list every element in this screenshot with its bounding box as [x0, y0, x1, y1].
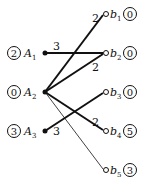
node-b1-name: b	[110, 8, 117, 21]
node-a1-name: A	[23, 47, 32, 60]
node-b3-sub: 3	[117, 93, 121, 101]
node-b4-name: b	[110, 125, 117, 138]
node-b5: b 5 3	[104, 164, 137, 180]
node-a1-value: 2	[11, 48, 17, 59]
weight-a1-b2: 3	[53, 40, 60, 53]
node-b3-value: 0	[127, 87, 133, 98]
bipartite-graph: 2 3 2 2 3 2 A 1 0 A 2 3 A 3 b 1 0 b 2 0	[0, 0, 146, 185]
node-a1-sub: 1	[32, 54, 36, 62]
node-b2-value: 0	[127, 48, 133, 59]
node-a3-sub: 3	[32, 132, 36, 140]
node-a1: 2 A 1	[8, 47, 48, 63]
node-b2-sub: 2	[117, 54, 121, 62]
node-b4-sub: 4	[117, 132, 122, 140]
node-a2-value: 0	[11, 87, 17, 98]
node-b4: b 4 5	[104, 125, 137, 141]
weight-a3-b3: 3	[53, 125, 60, 138]
weight-a2-b4: 2	[92, 116, 99, 129]
node-a2-name: A	[23, 86, 32, 99]
weight-a2-b2: 2	[92, 61, 99, 74]
node-b2: b 2 0	[104, 47, 137, 63]
node-b3-name: b	[110, 86, 117, 99]
node-b3: b 3 0	[104, 86, 137, 102]
node-b5-name: b	[110, 164, 117, 177]
weight-a2-b1: 2	[92, 12, 99, 25]
node-a3: 3 A 3	[8, 125, 48, 141]
node-b1-sub: 1	[117, 15, 121, 23]
node-b1: b 1 0	[104, 8, 137, 24]
node-b4-value: 5	[127, 126, 133, 137]
node-b5-sub: 5	[117, 171, 121, 179]
node-a2-sub: 2	[32, 93, 36, 101]
node-a3-value: 3	[11, 126, 17, 137]
node-b1-value: 0	[127, 9, 133, 20]
node-a3-name: A	[23, 125, 32, 138]
node-b2-name: b	[110, 47, 117, 60]
node-b5-value: 3	[127, 165, 133, 176]
node-a2: 0 A 2	[8, 86, 48, 102]
